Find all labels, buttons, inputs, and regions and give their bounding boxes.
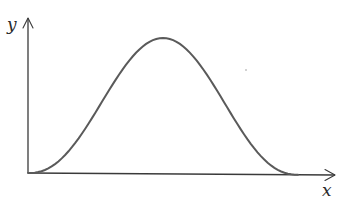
y-axis-label: y — [6, 14, 17, 34]
speck-mark — [245, 69, 247, 71]
bell-curve-diagram: y x — [0, 0, 340, 200]
bell-curve — [28, 38, 298, 175]
x-axis-label: x — [322, 180, 332, 200]
